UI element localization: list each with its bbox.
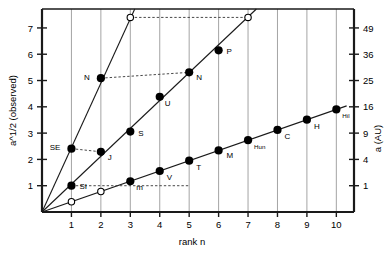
data-point[interactable]	[126, 177, 134, 185]
data-point-label: M	[227, 151, 234, 160]
y-axis-tick-label: 5	[28, 75, 33, 86]
x-axis-tick-label: 8	[275, 219, 280, 230]
data-point-label: SI	[79, 182, 87, 191]
data-point-label: S	[138, 129, 143, 138]
x-axis-tick-label: 2	[98, 219, 103, 230]
data-point[interactable]	[185, 68, 193, 76]
x-axis-tick-label: 6	[216, 219, 221, 230]
data-point-label: H	[314, 122, 320, 131]
y-axis-tick-label: 2	[28, 154, 33, 165]
y-axis-tick-label: 1	[28, 180, 33, 191]
data-point[interactable]	[185, 157, 193, 165]
dashed-connector-2	[101, 72, 189, 78]
data-point[interactable]	[215, 46, 223, 54]
data-point-label: C	[284, 132, 290, 141]
data-point[interactable]	[215, 146, 223, 154]
data-point[interactable]	[244, 136, 252, 144]
x-axis-title: rank n	[179, 236, 205, 247]
data-point[interactable]	[68, 199, 74, 205]
data-point-label: SE	[50, 143, 61, 152]
data-point-label: N	[84, 73, 90, 82]
y2-axis-tick-label: 16	[363, 101, 374, 112]
data-point[interactable]	[97, 148, 105, 156]
y2-axis-tick-label: 49	[363, 23, 374, 34]
data-point[interactable]	[127, 14, 133, 20]
data-point-label: T	[196, 163, 201, 172]
data-point-label: Hil	[342, 112, 349, 119]
dashed-connector-0	[71, 149, 100, 152]
y-axis-tick-label: 3	[28, 128, 33, 139]
data-point[interactable]	[245, 14, 251, 20]
data-point-label: Hun	[254, 143, 266, 150]
data-point[interactable]	[332, 105, 340, 113]
data-point[interactable]	[303, 116, 311, 124]
data-point[interactable]	[98, 188, 104, 194]
data-point-label: N	[196, 73, 202, 82]
x-axis-tick-label: 1	[69, 219, 74, 230]
data-point[interactable]	[273, 126, 281, 134]
data-point-label: U	[165, 99, 171, 108]
y-axis-title: a^1/2 (observed)	[7, 75, 18, 146]
y2-axis-tick-label: 1	[363, 180, 368, 191]
x-axis-tick-label: 5	[187, 219, 192, 230]
y2-axis-tick-label: 4	[363, 154, 368, 165]
chart-figure: 12345671491625364912345678910rank na^1/2…	[0, 0, 392, 258]
data-point-label: P	[227, 47, 232, 56]
x-axis-tick-label: 7	[245, 219, 250, 230]
series-line-1	[42, 9, 256, 212]
y2-axis-title: a (AU)	[372, 125, 383, 152]
data-point[interactable]	[126, 127, 134, 135]
chart-svg: 12345671491625364912345678910rank na^1/2…	[0, 0, 392, 258]
series-line-0	[42, 106, 347, 212]
data-point[interactable]	[97, 74, 105, 82]
data-point[interactable]	[156, 93, 164, 101]
data-point[interactable]	[67, 145, 75, 153]
data-point-label: V	[167, 173, 173, 182]
data-point-label: m	[136, 183, 143, 192]
series-line-2	[42, 9, 135, 212]
y-axis-tick-label: 7	[28, 23, 33, 34]
y2-axis-tick-label: 25	[363, 75, 374, 86]
data-point[interactable]	[67, 182, 75, 190]
x-axis-tick-label: 9	[304, 219, 309, 230]
x-axis-tick-label: 3	[128, 219, 133, 230]
data-point-label: J	[108, 153, 112, 162]
y-axis-tick-label: 4	[28, 101, 33, 112]
x-axis-tick-label: 4	[157, 219, 162, 230]
y2-axis-tick-label: 36	[363, 49, 374, 60]
x-axis-tick-label: 10	[331, 219, 342, 230]
y2-axis-tick-label: 9	[363, 128, 368, 139]
y-axis-tick-label: 6	[28, 49, 33, 60]
data-point[interactable]	[156, 167, 164, 175]
